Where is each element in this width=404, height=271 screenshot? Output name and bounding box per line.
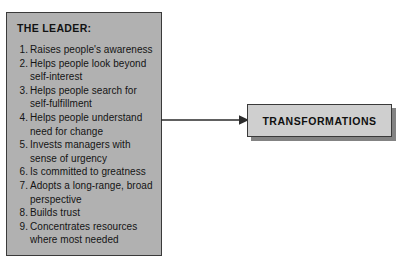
arrow-icon <box>161 112 249 128</box>
list-item-label: Invests managers with sense of urgency <box>30 138 154 165</box>
list-item-number: 4. <box>16 111 28 125</box>
list-item: 4. Helps people understand need for chan… <box>16 111 154 138</box>
diagram-canvas: THE LEADER: 1. Raises people's awareness… <box>0 0 404 271</box>
list-item-label: Builds trust <box>30 206 154 220</box>
transformations-box: TRANSFORMATIONS <box>247 104 392 137</box>
list-item-label: Concentrates resources where most needed <box>30 220 154 247</box>
leader-box: THE LEADER: 1. Raises people's awareness… <box>6 12 162 256</box>
list-item-number: 8. <box>16 206 28 220</box>
list-item: 5. Invests managers with sense of urgenc… <box>16 138 154 165</box>
list-item-label: Raises people's awareness <box>30 43 154 57</box>
list-item: 8. Builds trust <box>16 206 154 220</box>
list-item: 3. Helps people search for self-fulfillm… <box>16 84 154 111</box>
list-item-label: Helps people search for self-fulfillment <box>30 84 154 111</box>
leader-attributes-list: 1. Raises people's awareness 2. Helps pe… <box>16 43 154 247</box>
list-item-number: 6. <box>16 165 28 179</box>
list-item-number: 9. <box>16 220 28 234</box>
list-item: 6. Is committed to greatness <box>16 165 154 179</box>
transformations-node: TRANSFORMATIONS <box>247 104 396 142</box>
list-item-number: 3. <box>16 84 28 98</box>
list-item: 9. Concentrates resources where most nee… <box>16 220 154 247</box>
list-item: 1. Raises people's awareness <box>16 43 154 57</box>
list-item: 2. Helps people look beyond self-interes… <box>16 57 154 84</box>
list-item-number: 1. <box>16 43 28 57</box>
list-item-label: Is committed to greatness <box>30 165 154 179</box>
list-item-number: 2. <box>16 57 28 71</box>
list-item: 7. Adopts a long-range, broad perspectiv… <box>16 179 154 206</box>
list-item-number: 5. <box>16 138 28 152</box>
list-item-label: Helps people understand need for change <box>30 111 154 138</box>
list-item-label: Helps people look beyond self-interest <box>30 57 154 84</box>
leader-box-title: THE LEADER: <box>17 22 154 34</box>
list-item-label: Adopts a long-range, broad perspective <box>30 179 154 206</box>
transformations-label: TRANSFORMATIONS <box>262 115 376 127</box>
list-item-number: 7. <box>16 179 28 193</box>
